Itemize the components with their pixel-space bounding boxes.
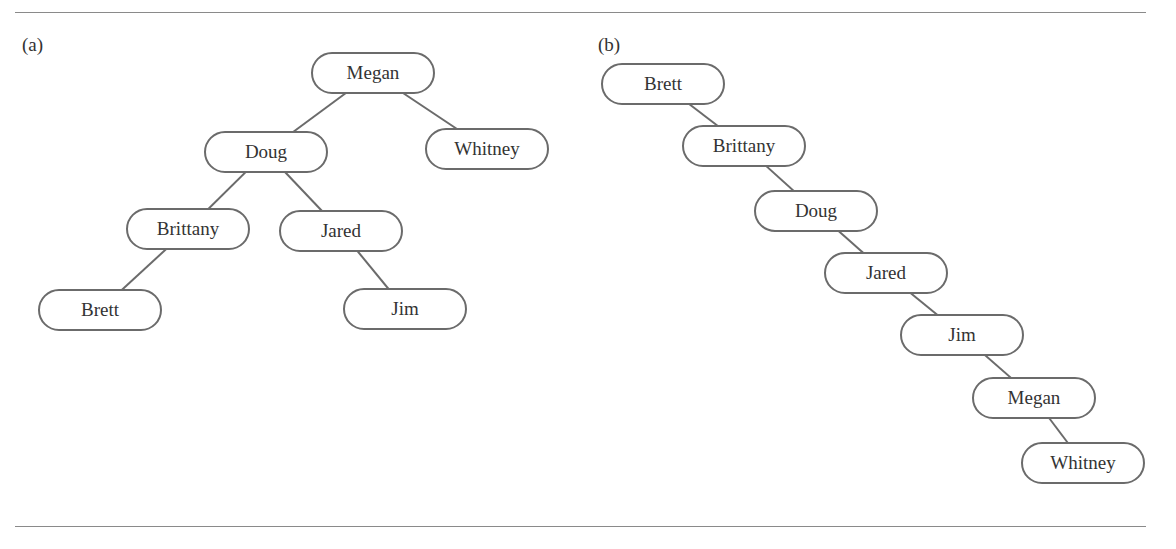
tree-node-brett: Brett xyxy=(601,63,725,105)
tree-node-brett: Brett xyxy=(38,289,162,331)
tree-node-jim: Jim xyxy=(343,288,467,330)
tree-node-doug: Doug xyxy=(754,190,878,232)
tree-edges xyxy=(0,0,1176,549)
tree-node-megan: Megan xyxy=(972,377,1096,419)
tree-node-jim: Jim xyxy=(900,314,1024,356)
tree-node-megan: Megan xyxy=(311,52,435,94)
tree-node-jared: Jared xyxy=(279,210,403,252)
tree-node-jared: Jared xyxy=(824,252,948,294)
tree-node-whitney: Whitney xyxy=(1021,442,1145,484)
tree-node-brittany: Brittany xyxy=(682,125,806,167)
tree-node-doug: Doug xyxy=(204,131,328,173)
tree-node-brittany: Brittany xyxy=(126,208,250,250)
tree-node-whitney: Whitney xyxy=(425,128,549,170)
